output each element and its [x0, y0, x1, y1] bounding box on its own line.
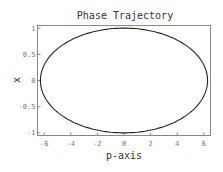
x-tick-label: 6	[202, 140, 206, 148]
x-tick-label: -6	[40, 140, 48, 148]
y-tick-label: 0	[31, 77, 35, 85]
y-tick-label: 1	[31, 25, 35, 33]
y-axis-label: x	[11, 77, 22, 83]
x-axis-label: p-axis	[106, 150, 142, 161]
trajectory-curve	[40, 28, 207, 133]
chart-title: Phase Trajectory	[77, 10, 173, 21]
plot-frame	[38, 26, 211, 136]
y-tick-label: -1	[27, 129, 35, 137]
x-axis-ticks: -6-4-20246	[40, 133, 206, 148]
x-tick-label: -2	[93, 140, 101, 148]
x-tick-label: 2	[149, 140, 153, 148]
x-tick-label: 0	[122, 140, 126, 148]
phase-trajectory-chart: Phase Trajectory -6-4-20246 -1-0.500.51 …	[0, 0, 223, 172]
x-tick-label: 4	[175, 140, 179, 148]
y-tick-label: -0.5	[19, 103, 36, 111]
x-tick-label: -4	[67, 140, 75, 148]
y-tick-label: 0.5	[23, 51, 36, 59]
